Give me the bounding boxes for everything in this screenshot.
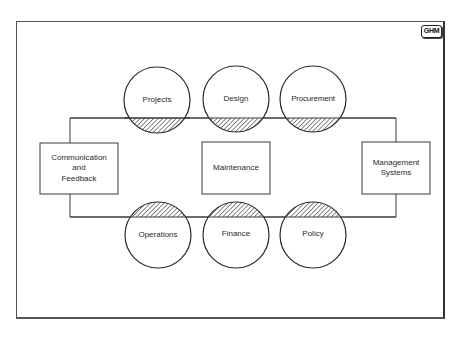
label-finance: Finance xyxy=(203,228,269,239)
label-procurement: Procurement xyxy=(278,93,348,104)
label-design: Design xyxy=(203,93,269,104)
label-projects: Projects xyxy=(124,94,190,105)
label-communication-line1: Communication xyxy=(51,153,107,164)
diagram-canvas: GHM xyxy=(0,0,463,337)
label-policy: Policy xyxy=(280,228,346,239)
label-operations: Operations xyxy=(124,229,192,240)
label-management: Management Systems xyxy=(362,142,430,194)
label-maintenance: Maintenance xyxy=(202,142,270,194)
label-management-line1: Management xyxy=(373,158,420,169)
label-communication: Communication and Feedback xyxy=(40,143,118,194)
label-communication-line2: and xyxy=(72,163,85,174)
label-communication-line3: Feedback xyxy=(61,174,96,185)
label-management-line2: Systems xyxy=(381,168,412,179)
